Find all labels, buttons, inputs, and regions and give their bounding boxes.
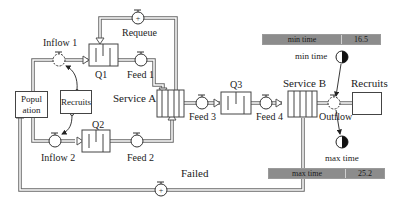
conveyor-service-a — [157, 90, 184, 117]
queue-q3 — [221, 92, 251, 114]
label-inflow2: Inflow 2 — [41, 153, 75, 163]
label-max-time: max time — [325, 154, 359, 163]
conveyor-service-b — [288, 91, 317, 117]
readout-max-time: max time 25.2 — [268, 168, 385, 179]
svg-text:+: + — [159, 186, 164, 195]
label-q3: Q3 — [230, 80, 242, 90]
label-q2: Q2 — [92, 120, 104, 130]
stock-population[interactable]: Popul ation — [15, 91, 48, 118]
label-q1: Q1 — [95, 70, 107, 80]
label-min-time: min time — [295, 52, 327, 61]
label-feed4: Feed 4 — [256, 112, 283, 122]
readout-min-value: 16.5 — [342, 35, 380, 44]
readout-max-label: max time — [269, 169, 346, 178]
converter-min-time — [336, 51, 348, 63]
queue-q2 — [82, 130, 110, 152]
readout-max-value: 25.2 — [346, 169, 384, 178]
label-failed: Failed — [181, 168, 209, 179]
stock-recruits-left[interactable]: Recruits — [60, 90, 92, 114]
label-outflow: Outflow — [319, 112, 352, 122]
label-feed2: Feed 2 — [127, 153, 154, 163]
population-line2: ation — [21, 105, 42, 115]
svg-text:+: + — [136, 14, 141, 23]
queue-q1 — [89, 44, 118, 66]
label-recruits-right: Recruits — [351, 78, 388, 89]
stock-recruits-right[interactable] — [352, 92, 382, 115]
label-service-a: Service A — [113, 93, 156, 104]
readout-min-time: min time 16.5 — [262, 34, 381, 45]
label-feed1: Feed 1 — [127, 70, 154, 80]
label-inflow1: Inflow 1 — [43, 38, 77, 48]
recruits-left-label: Recruits — [61, 97, 91, 107]
label-feed3: Feed 3 — [189, 112, 216, 122]
readout-min-label: min time — [263, 35, 342, 44]
label-requeue: Requeue — [122, 28, 157, 38]
label-service-b: Service B — [283, 78, 326, 89]
converter-max-time — [336, 136, 348, 148]
population-line1: Popul — [21, 94, 42, 104]
